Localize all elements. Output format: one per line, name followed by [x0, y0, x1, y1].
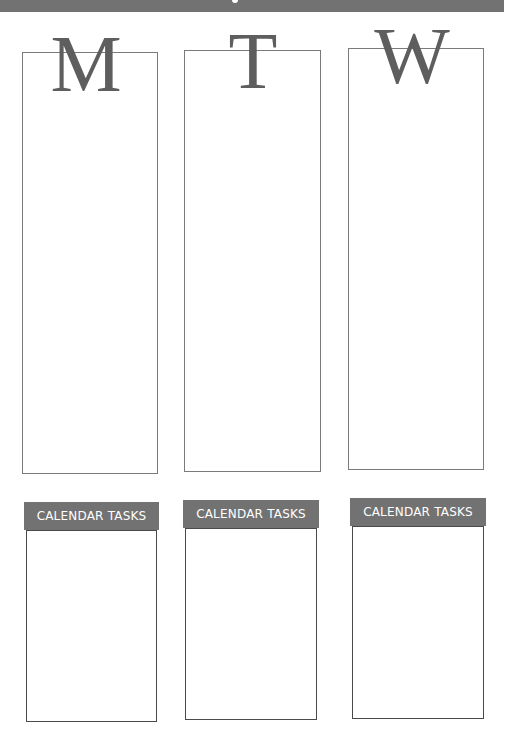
day-box-tuesday[interactable] — [184, 50, 321, 472]
calendar-tasks-header: CALENDAR TASKS — [183, 500, 319, 528]
calendar-tasks-wednesday: CALENDAR TASKS — [350, 498, 486, 719]
day-box-monday[interactable] — [22, 52, 158, 474]
calendar-tasks-header: CALENDAR TASKS — [24, 502, 159, 530]
calendar-tasks-header: CALENDAR TASKS — [350, 498, 486, 526]
calendar-tasks-tuesday: CALENDAR TASKS — [183, 500, 319, 720]
calendar-tasks-area[interactable] — [26, 530, 157, 722]
header-mark — [232, 0, 238, 3]
day-letter-wednesday: W — [352, 16, 472, 96]
day-box-wednesday[interactable] — [348, 48, 484, 470]
day-letter-tuesday: T — [193, 21, 313, 101]
calendar-tasks-monday: CALENDAR TASKS — [24, 502, 159, 722]
day-letter-monday: M — [26, 24, 146, 104]
header-bar — [0, 0, 504, 12]
calendar-tasks-area[interactable] — [352, 526, 484, 719]
calendar-tasks-area[interactable] — [185, 528, 317, 720]
